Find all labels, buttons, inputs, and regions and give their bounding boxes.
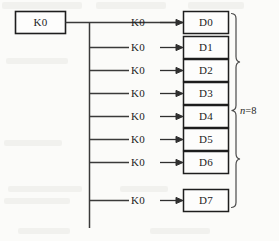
arrow-to-box-group [160, 19, 183, 203]
destination-box-label: D5 [183, 134, 229, 145]
branch-operand-label: K0 [131, 65, 145, 76]
source-block-label: K0 [15, 17, 66, 28]
branch-operand-label: K0 [131, 42, 145, 53]
branch-operand-label: K0 [131, 111, 145, 122]
destination-box-label: D6 [183, 157, 229, 168]
destination-box-label: D4 [183, 111, 229, 122]
branch-operand-label: K0 [131, 157, 145, 168]
destination-box-label: D0 [183, 17, 229, 28]
grouping-brace [232, 14, 241, 208]
destination-box-label: D1 [183, 42, 229, 53]
brace-count-annotation: n=8 [240, 106, 256, 117]
destination-box-label: D3 [183, 88, 229, 99]
branch-operand-label: K0 [131, 88, 145, 99]
diagram-canvas: K0 K0 K0 K0 K0 K0 K0 K0 K0 D0 D1 D2 D3 D… [0, 0, 279, 241]
destination-box-label: D7 [183, 195, 229, 206]
branch-operand-label: K0 [131, 134, 145, 145]
destination-box-label: D2 [183, 65, 229, 76]
branch-operand-label: K0 [131, 17, 145, 28]
branch-operand-label: K0 [131, 195, 145, 206]
brace-count-value: 8 [251, 105, 256, 116]
